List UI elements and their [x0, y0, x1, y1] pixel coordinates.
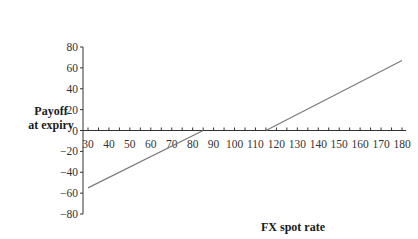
x-tick-label: 130	[289, 138, 307, 150]
x-tick-label: 40	[103, 138, 115, 150]
x-tick-label: 150	[331, 138, 349, 150]
x-tick-label: 90	[208, 138, 220, 150]
y-tick-label: −40	[60, 166, 78, 178]
x-tick-label: 170	[372, 138, 390, 150]
x-tick-label: 100	[226, 138, 244, 150]
y-axis-label: Payoff at expiry	[18, 104, 84, 132]
y-axis-label-line1: Payoff	[18, 104, 84, 118]
x-tick-label: 110	[247, 138, 264, 150]
y-tick-label: 80	[67, 41, 79, 53]
y-tick-label: −20	[60, 145, 78, 157]
x-tick-label: 80	[187, 138, 199, 150]
payoff-line	[266, 61, 402, 131]
x-tick-label: 120	[268, 138, 286, 150]
x-tick-label: 180	[393, 138, 411, 150]
x-axis-label: FX spot rate	[238, 220, 348, 234]
y-tick-label: −80	[60, 208, 78, 220]
x-tick-label: 60	[145, 138, 157, 150]
y-tick-label: 60	[67, 62, 79, 74]
x-tick-label: 50	[124, 138, 136, 150]
x-tick-label: 140	[310, 138, 328, 150]
axes	[80, 47, 406, 214]
y-tick-label: −60	[60, 187, 78, 199]
y-tick-label: 40	[67, 83, 79, 95]
y-axis-label-line2: at expiry	[18, 118, 84, 132]
x-tick-label: 30	[82, 138, 94, 150]
payoff-lines	[88, 61, 402, 188]
x-tick-label: 160	[352, 138, 370, 150]
